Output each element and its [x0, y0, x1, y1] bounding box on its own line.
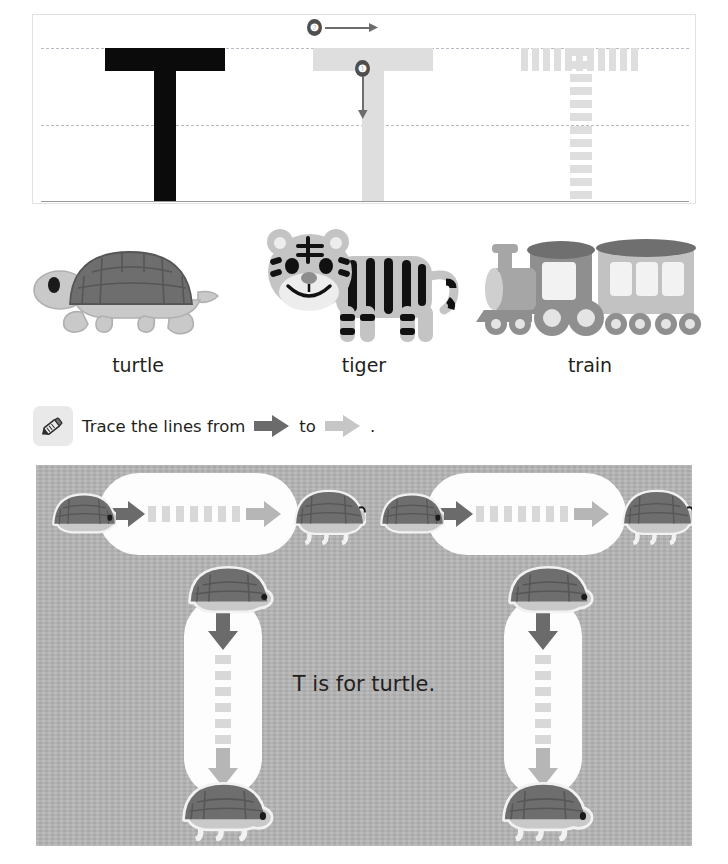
tiger-icon — [248, 214, 480, 354]
guideline-baseline — [41, 201, 689, 202]
picture-cell-turtle: turtle — [22, 214, 254, 394]
turtle-top-v-left — [170, 561, 276, 621]
worksheet-page: ❷ ❶ — [0, 0, 728, 864]
turtle-icon — [22, 214, 254, 354]
turtle-bottom-v-left — [164, 777, 276, 841]
crayon-icon — [33, 406, 73, 446]
picture-label-train: train — [474, 354, 706, 376]
picture-row: turtle — [0, 214, 728, 394]
stroke-order-2-marker: ❷ — [307, 19, 322, 36]
dark-arrow-icon — [254, 415, 290, 437]
picture-cell-train: train — [474, 214, 706, 394]
turtle-top-v-right — [490, 561, 596, 621]
letter-t-stem — [154, 48, 176, 201]
instruction-text-after: . — [370, 417, 375, 436]
stroke-1-arrow-shaft — [362, 77, 364, 114]
stroke-order-1-marker: ❶ — [355, 60, 370, 77]
picture-cell-tiger: tiger — [248, 214, 480, 394]
light-arrow-icon — [325, 415, 361, 437]
stroke-1-arrow-head — [357, 110, 369, 122]
letter-t-stem — [570, 48, 592, 201]
turtle-bottom-v-right — [484, 777, 596, 841]
turtle-end-h-right — [608, 479, 692, 551]
instruction-text-middle: to — [299, 417, 316, 436]
lane-h-left-dashes — [148, 506, 244, 522]
picture-label-turtle: turtle — [22, 354, 254, 376]
lane-v-left-dashes — [215, 655, 231, 745]
turtle-end-h-left — [280, 479, 366, 551]
picture-label-tiger: tiger — [248, 354, 480, 376]
instruction-text-before: Trace the lines from — [82, 417, 245, 436]
turtle-start-h-right — [370, 483, 444, 545]
lane-h-left-end-arrow — [246, 501, 282, 527]
letter-tracing-box: ❷ ❶ — [32, 14, 696, 204]
lane-v-right-dashes — [535, 655, 551, 745]
stroke-2-arrow-head — [369, 22, 381, 34]
lane-h-right-dashes — [476, 506, 572, 522]
train-icon — [474, 214, 706, 354]
instruction-row: Trace the lines from to . — [33, 405, 375, 447]
turtle-start-h-left — [42, 483, 116, 545]
activity-caption: T is for turtle. — [36, 672, 692, 696]
tracing-activity-panel: T is for turtle. — [36, 465, 692, 846]
lane-h-right-end-arrow — [574, 501, 610, 527]
stroke-2-arrow-shaft — [325, 27, 373, 29]
